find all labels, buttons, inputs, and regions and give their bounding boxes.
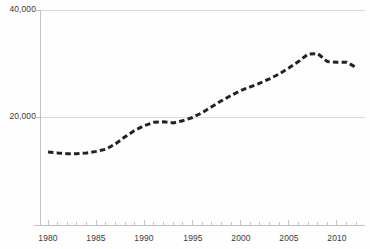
chart-container: 40,000 20,000 1980 1985 1990 1995 2000 2… [0, 0, 370, 249]
x-axis-minor-tick-marks [48, 220, 356, 225]
plot-area [0, 0, 370, 249]
data-series-line [48, 54, 356, 154]
